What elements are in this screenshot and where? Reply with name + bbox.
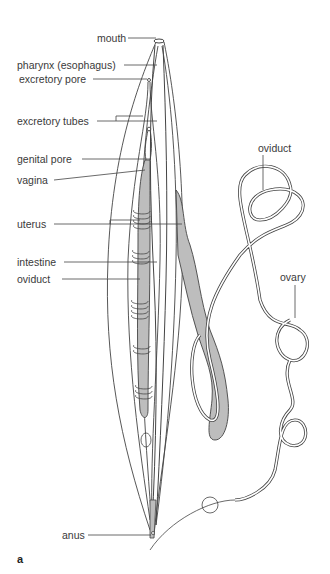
uterus-right bbox=[176, 190, 228, 440]
label-excretory-pore: excretory pore bbox=[19, 73, 86, 85]
roundworm-anatomy-diagram: mouth pharynx (esophagus) excretory pore… bbox=[0, 0, 330, 574]
label-oviduct-right: oviduct bbox=[258, 142, 291, 154]
label-genital-pore: genital pore bbox=[17, 153, 72, 165]
panel-label: a bbox=[17, 553, 23, 565]
label-anus: anus bbox=[62, 529, 85, 541]
uterus-left bbox=[138, 160, 151, 418]
label-oviduct-left: oviduct bbox=[17, 273, 50, 285]
label-vagina: vagina bbox=[17, 174, 48, 186]
label-pharynx: pharynx (esophagus) bbox=[17, 59, 116, 71]
mouth-opening bbox=[154, 39, 164, 43]
label-mouth: mouth bbox=[97, 32, 126, 44]
worm-illustration bbox=[0, 0, 330, 574]
label-ovary: ovary bbox=[280, 271, 306, 283]
label-excretory-tubes: excretory tubes bbox=[17, 115, 89, 127]
label-intestine: intestine bbox=[17, 256, 56, 268]
label-uterus: uterus bbox=[17, 218, 46, 230]
